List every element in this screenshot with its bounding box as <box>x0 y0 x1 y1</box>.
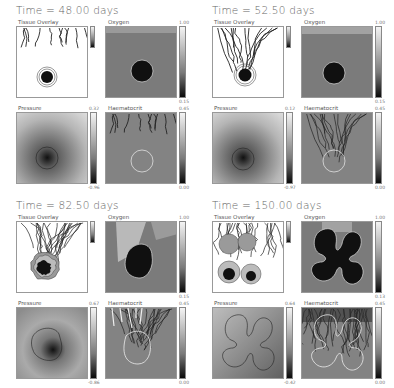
haematocrit-panel <box>301 112 373 184</box>
pressure-label: Pressure <box>214 105 238 111</box>
oxygen-colorbar <box>375 221 382 293</box>
haematocrit-min-value: 0.00 <box>179 185 189 190</box>
pressure-colorbar <box>286 112 293 184</box>
haematocrit-min-value: 0.00 <box>375 185 385 190</box>
quadrant-1: Time = 48.00 days Tissue Overlay Oxygen … <box>0 0 196 194</box>
haematocrit-panel <box>105 112 177 184</box>
pressure-max-value: 0.64 <box>285 301 295 306</box>
haematocrit-colorbar <box>179 112 186 184</box>
oxygen-max-value: 1.00 <box>375 215 385 220</box>
pressure-max-value: 0.67 <box>89 301 99 306</box>
pressure-label: Pressure <box>214 300 238 306</box>
pressure-panel <box>16 112 88 184</box>
pressure-min-value: -0.97 <box>284 185 296 190</box>
oxygen-max-value: 1.00 <box>179 215 189 220</box>
pressure-min-value: -0.86 <box>88 380 100 385</box>
haematocrit-colorbar <box>375 112 382 184</box>
tissue-overlay-panel <box>212 221 284 293</box>
time-title: Time = 48.00 days <box>16 4 119 16</box>
time-title: Time = 82.50 days <box>16 199 119 211</box>
haematocrit-colorbar <box>375 307 382 379</box>
tissue-overlay-label: Tissue Overlay <box>18 19 58 25</box>
quadrant-2: Time = 52.50 days Tissue Overlay Oxygen … <box>196 0 392 194</box>
haematocrit-colorbar <box>179 307 186 379</box>
pressure-min-value: -0.42 <box>284 380 296 385</box>
haematocrit-min-value: 0.00 <box>179 380 189 385</box>
haematocrit-label: Haematocrit <box>304 105 338 111</box>
quadrant-3: Time = 82.50 days Tissue Overlay Oxygen … <box>0 195 196 388</box>
oxygen-max-value: 1.00 <box>179 20 189 25</box>
oxygen-label: Oxygen <box>108 19 129 25</box>
oxygen-panel <box>301 26 373 98</box>
pressure-max-value: 0.32 <box>89 106 99 111</box>
scale-bar <box>90 26 95 48</box>
pressure-panel <box>212 307 284 379</box>
haematocrit-max-value: 0.45 <box>179 106 189 111</box>
haematocrit-max-value: 0.45 <box>375 106 385 111</box>
haematocrit-max-value: 0.45 <box>179 301 189 306</box>
pressure-panel <box>212 112 284 184</box>
tissue-overlay-panel <box>16 26 88 98</box>
oxygen-label: Oxygen <box>304 214 325 220</box>
oxygen-min-value: 0.15 <box>179 99 189 104</box>
time-title: Time = 150.00 days <box>212 199 322 211</box>
oxygen-colorbar <box>179 26 186 98</box>
oxygen-min-value: 0.13 <box>375 294 385 299</box>
tissue-overlay-panel <box>212 26 284 98</box>
oxygen-min-value: 0.15 <box>179 294 189 299</box>
pressure-max-value: 0.12 <box>285 106 295 111</box>
pressure-label: Pressure <box>18 105 42 111</box>
oxygen-colorbar <box>375 26 382 98</box>
tissue-overlay-label: Tissue Overlay <box>214 19 254 25</box>
haematocrit-panel <box>301 307 373 379</box>
oxygen-panel <box>105 221 177 293</box>
oxygen-max-value: 1.00 <box>375 20 385 25</box>
haematocrit-label: Haematocrit <box>108 105 142 111</box>
oxygen-panel <box>301 221 373 293</box>
pressure-colorbar <box>286 307 293 379</box>
scale-bar <box>286 221 291 243</box>
tissue-overlay-label: Tissue Overlay <box>214 214 254 220</box>
oxygen-label: Oxygen <box>108 214 129 220</box>
oxygen-panel <box>105 26 177 98</box>
scale-bar <box>90 221 95 243</box>
haematocrit-max-value: 0.45 <box>375 301 385 306</box>
oxygen-label: Oxygen <box>304 19 325 25</box>
pressure-panel <box>16 307 88 379</box>
pressure-label: Pressure <box>18 300 42 306</box>
haematocrit-label: Haematocrit <box>108 300 142 306</box>
scale-bar <box>286 26 291 48</box>
quadrant-4: Time = 150.00 days Tissue Overlay Oxygen… <box>196 195 392 388</box>
oxygen-min-value: 0.15 <box>375 99 385 104</box>
time-title: Time = 52.50 days <box>212 4 315 16</box>
oxygen-colorbar <box>179 221 186 293</box>
tissue-overlay-label: Tissue Overlay <box>18 214 58 220</box>
pressure-min-value: -0.96 <box>88 185 100 190</box>
pressure-colorbar <box>90 307 97 379</box>
haematocrit-label: Haematocrit <box>304 300 338 306</box>
haematocrit-panel <box>105 307 177 379</box>
tissue-overlay-panel <box>16 221 88 293</box>
haematocrit-min-value: 0.00 <box>375 380 385 385</box>
pressure-colorbar <box>90 112 97 184</box>
